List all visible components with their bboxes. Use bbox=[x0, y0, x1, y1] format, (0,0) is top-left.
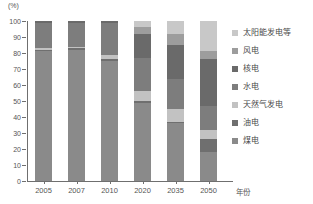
y-tick-mark bbox=[22, 165, 26, 166]
bar-segment bbox=[167, 123, 184, 181]
x-tick-mark bbox=[110, 181, 111, 184]
legend-label: 煤电 bbox=[243, 137, 259, 145]
legend-swatch-icon bbox=[232, 120, 238, 126]
bar-segment bbox=[200, 139, 217, 152]
y-tick-mark bbox=[22, 133, 26, 134]
y-tick-mark bbox=[22, 181, 26, 182]
bar-2010[interactable] bbox=[101, 21, 118, 181]
bar-segment bbox=[167, 79, 184, 109]
x-tick-label-2005: 2005 bbox=[35, 186, 52, 195]
y-tick-label: 20 bbox=[13, 146, 21, 153]
legend-label: 油电 bbox=[243, 119, 259, 127]
legend-item-1[interactable]: 风电 bbox=[232, 42, 312, 60]
legend-swatch-icon bbox=[232, 138, 238, 144]
y-tick-label: 0 bbox=[17, 178, 21, 185]
bar-2005[interactable] bbox=[35, 21, 52, 181]
bar-segment bbox=[35, 23, 52, 49]
bar-segment bbox=[200, 59, 217, 105]
bar-2020[interactable] bbox=[134, 21, 151, 181]
legend-swatch-icon bbox=[232, 66, 238, 72]
legend-item-0[interactable]: 太阳能发电等 bbox=[232, 24, 312, 42]
y-tick-label: 100 bbox=[9, 18, 21, 25]
x-tick-label-2010: 2010 bbox=[101, 186, 118, 195]
legend-swatch-icon bbox=[232, 84, 238, 90]
legend-label: 天然气发电 bbox=[243, 101, 283, 109]
legend-item-2[interactable]: 核电 bbox=[232, 60, 312, 78]
bar-segment bbox=[167, 109, 184, 122]
x-tick-label-2007: 2007 bbox=[68, 186, 85, 195]
bar-segment bbox=[68, 23, 85, 47]
y-tick-mark bbox=[22, 53, 26, 54]
y-tick-label: 60 bbox=[13, 82, 21, 89]
y-tick-label: 50 bbox=[13, 98, 21, 105]
legend-label: 风电 bbox=[243, 47, 259, 55]
x-tick-mark bbox=[143, 181, 144, 184]
legend-swatch-icon bbox=[232, 48, 238, 54]
x-tick-label-2020: 2020 bbox=[134, 186, 151, 195]
bar-2050[interactable] bbox=[200, 21, 217, 181]
x-tick-label-2050: 2050 bbox=[200, 186, 217, 195]
y-tick-label: 90 bbox=[13, 34, 21, 41]
x-tick-mark bbox=[209, 181, 210, 184]
x-axis-title: 年份 bbox=[236, 186, 250, 197]
x-axis-line bbox=[27, 181, 233, 182]
y-tick-mark bbox=[22, 149, 26, 150]
bar-segment bbox=[134, 58, 151, 92]
legend-item-3[interactable]: 水电 bbox=[232, 78, 312, 96]
y-tick-mark bbox=[22, 101, 26, 102]
y-tick-mark bbox=[22, 21, 26, 22]
legend-label: 水电 bbox=[243, 83, 259, 91]
legend-item-4[interactable]: 天然气发电 bbox=[232, 96, 312, 114]
legend-swatch-icon bbox=[232, 102, 238, 108]
legend-item-6[interactable]: 煤电 bbox=[232, 132, 312, 150]
bar-segment bbox=[200, 21, 217, 51]
y-tick-mark bbox=[22, 117, 26, 118]
y-axis-unit-label: (%) bbox=[8, 2, 19, 9]
bar-segment bbox=[101, 23, 118, 55]
bar-segment bbox=[134, 103, 151, 181]
x-tick-mark bbox=[44, 181, 45, 184]
x-tick-label-2035: 2035 bbox=[167, 186, 184, 195]
stacked-bar-chart: (%) 0102030405060708090100 2005200720102… bbox=[0, 0, 313, 204]
y-tick-label: 10 bbox=[13, 162, 21, 169]
y-tick-mark bbox=[22, 37, 26, 38]
legend-item-5[interactable]: 油电 bbox=[232, 114, 312, 132]
x-tick-mark bbox=[77, 181, 78, 184]
bar-segment bbox=[134, 34, 151, 58]
y-tick-label: 80 bbox=[13, 50, 21, 57]
y-tick-label: 70 bbox=[13, 66, 21, 73]
bar-2035[interactable] bbox=[167, 21, 184, 181]
legend-label: 太阳能发电等 bbox=[243, 29, 291, 37]
y-tick-mark bbox=[22, 69, 26, 70]
legend-label: 核电 bbox=[243, 65, 259, 73]
bar-segment bbox=[200, 152, 217, 181]
x-tick-mark bbox=[176, 181, 177, 184]
bar-segment bbox=[35, 51, 52, 181]
y-tick-mark bbox=[22, 85, 26, 86]
bar-segment bbox=[68, 50, 85, 181]
bar-segment bbox=[200, 51, 217, 59]
bar-segment bbox=[167, 45, 184, 79]
bar-segment bbox=[134, 91, 151, 101]
bar-segment bbox=[101, 61, 118, 181]
bar-segment bbox=[167, 21, 184, 34]
bar-2007[interactable] bbox=[68, 21, 85, 181]
legend-swatch-icon bbox=[232, 30, 238, 36]
chart-legend: 太阳能发电等风电核电水电天然气发电油电煤电 bbox=[232, 24, 312, 150]
bar-segment bbox=[200, 106, 217, 130]
y-tick-label: 30 bbox=[13, 130, 21, 137]
bar-segment bbox=[200, 130, 217, 140]
plot-area bbox=[27, 21, 225, 181]
y-tick-label: 40 bbox=[13, 114, 21, 121]
bar-segment bbox=[167, 34, 184, 45]
